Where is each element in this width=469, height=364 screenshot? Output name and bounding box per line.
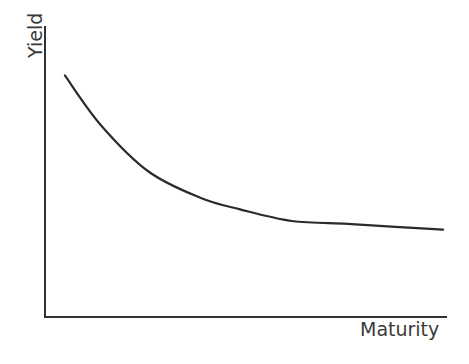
y-axis-label: Yield bbox=[24, 13, 46, 58]
yield-curve-chart bbox=[0, 0, 469, 364]
yield-curve-line bbox=[65, 75, 443, 229]
x-axis-label: Maturity bbox=[360, 318, 439, 340]
